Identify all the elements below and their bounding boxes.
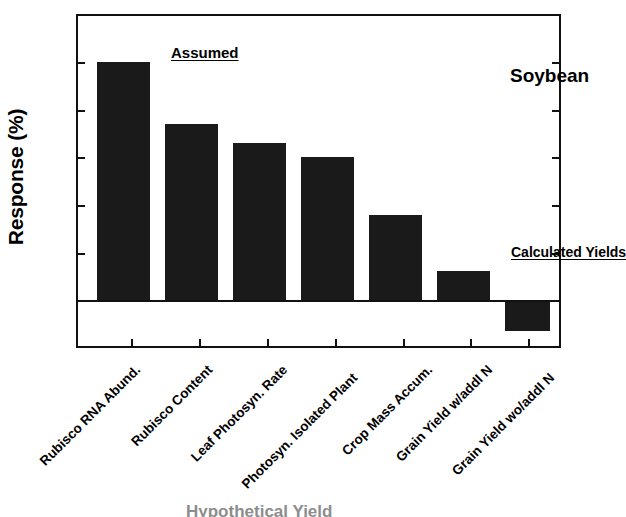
x-tick-1: [131, 339, 133, 346]
x-tick-6: [470, 339, 472, 346]
plot-area: Assumed Calculated Yields Soybean: [76, 14, 561, 348]
bar-leaf-photosyn-rate[interactable]: [233, 143, 286, 300]
annotation-assumed: Assumed: [171, 44, 239, 61]
x-tick-4: [335, 339, 337, 346]
y-tick-10: [78, 253, 85, 255]
zero-baseline: [78, 300, 559, 302]
x-tick-label-grain-yield-wo-addl-n: Grain Yield wo/addl N: [405, 370, 557, 517]
figure-caption-text: Hypothetical Yield: [186, 505, 332, 517]
x-tick-2: [199, 339, 201, 346]
y-tick-50: [78, 62, 85, 64]
chart-title-soybean: Soybean: [510, 65, 589, 87]
bar-photosyn-isolated-plant[interactable]: [301, 157, 354, 300]
y-tick-30: [78, 157, 85, 159]
y-tick-right-20: [552, 205, 559, 207]
y-tick-right-30: [552, 157, 559, 159]
x-tick-5: [403, 339, 405, 346]
y-tick-right-40: [552, 110, 559, 112]
x-tick-label-leaf-photosyn-rate: Leaf Photosyn. Rate: [152, 362, 290, 500]
x-tick-label-rubisco-content: Rubisco Content: [84, 362, 215, 493]
figure-caption-clipped: Hypothetical Yield: [0, 505, 577, 517]
y-tick-20: [78, 205, 85, 207]
y-tick-40: [78, 110, 85, 112]
bar-crop-mass-accum[interactable]: [369, 215, 422, 300]
bar-grain-yield-wo-addl-n[interactable]: [505, 302, 550, 331]
annotation-calculated-yields: Calculated Yields: [511, 244, 626, 260]
bar-rubisco-rna-abund[interactable]: [97, 62, 150, 300]
bar-grain-yield-w-addl-n[interactable]: [437, 271, 490, 300]
x-tick-label-rubisco-rna-abund: Rubisco RNA Abund.: [12, 362, 143, 493]
y-axis-title: Response (%): [4, 77, 28, 277]
y-tick-right-50: [552, 62, 559, 64]
x-tick-3: [267, 339, 269, 346]
x-tick-7: [528, 339, 530, 346]
x-tick-label-photosyn-isolated-plant: Photosyn. Isolated Plant: [208, 370, 360, 517]
bar-rubisco-content[interactable]: [165, 124, 218, 300]
